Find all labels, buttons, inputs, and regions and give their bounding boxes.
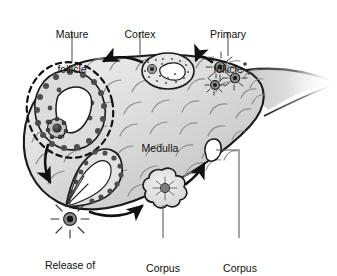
label-medulla-line1: Medulla <box>132 143 188 155</box>
leader-corpus-albicans <box>216 150 239 238</box>
label-mature-follicle-line2: follicle <box>32 64 112 76</box>
label-corpus-luteum-line1: Corpus <box>128 263 198 275</box>
label-medulla: Medulla <box>132 120 188 178</box>
label-cortex: Cortex <box>105 6 175 64</box>
label-corpus-albicans: Corpus albicans <box>202 240 278 276</box>
label-primary-follicle: Primary follicle <box>188 6 268 98</box>
released-oocyte <box>51 200 89 238</box>
label-release-line1: Release of <box>24 260 116 272</box>
label-corpus-luteum: Corpus luteum <box>128 240 198 276</box>
label-mature-follicle: Mature follicle <box>32 6 112 98</box>
label-corpus-albicans-line1: Corpus <box>202 263 278 275</box>
label-primary-follicle-line2: follicle <box>188 64 268 76</box>
label-release-of-secondary-oocyte: Release of secondary oocyte <box>24 237 116 276</box>
ovary-diagram: Mature follicle Cortex Primary follicle … <box>0 0 337 276</box>
label-mature-follicle-line1: Mature <box>32 29 112 41</box>
label-cortex-line1: Cortex <box>105 29 175 41</box>
label-primary-follicle-line1: Primary <box>188 29 268 41</box>
